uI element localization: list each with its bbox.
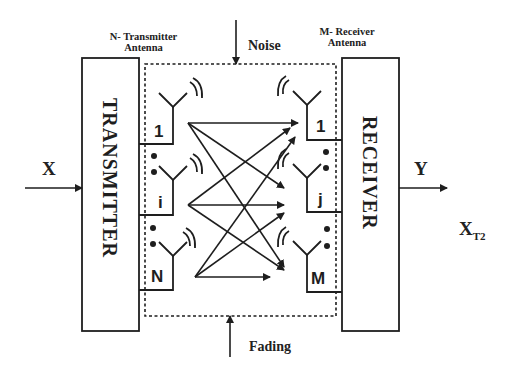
tx-ellipsis-dots — [150, 153, 157, 247]
tx-antenna-1-number: 1 — [154, 122, 163, 142]
tx-antenna-i — [139, 154, 202, 215]
xt2-label: XT2 — [459, 218, 486, 242]
receiver-label: RECEIVER — [358, 116, 381, 230]
rx-antenna-label-line1: M- Receiver — [306, 26, 388, 37]
rx-antenna-label: M- Receiver Antenna — [306, 26, 388, 48]
input-x-label: X — [42, 158, 56, 180]
rx-antenna-M — [278, 227, 342, 292]
tx-antenna-1 — [139, 78, 202, 144]
diagram-canvas — [0, 0, 516, 380]
output-y-label: Y — [414, 158, 428, 180]
tx-antenna-label: N- Transmitter Antenna — [96, 31, 191, 53]
xt2-main: X — [459, 218, 473, 239]
noise-label: Noise — [248, 38, 281, 54]
rx-antenna-M-number: M — [311, 269, 325, 289]
rx-antenna-j — [278, 149, 342, 212]
tx-antenna-label-line1: N- Transmitter — [96, 31, 191, 42]
tx-antenna-i-number: i — [158, 193, 163, 213]
tx-antenna-label-line2: Antenna — [96, 42, 191, 53]
channel-paths — [188, 123, 298, 277]
rx-antenna-j-number: j — [318, 190, 323, 210]
rx-antenna-label-line2: Antenna — [306, 37, 388, 48]
fading-label: Fading — [249, 339, 291, 355]
transmitter-label: TRANSMITTER — [98, 98, 121, 258]
rx-ellipsis-dots — [323, 149, 330, 249]
tx-antenna-N-number: N — [151, 267, 163, 287]
xt2-subscript: T2 — [473, 230, 486, 242]
tx-antenna-N — [139, 228, 195, 290]
rx-antenna-1-number: 1 — [316, 117, 325, 137]
